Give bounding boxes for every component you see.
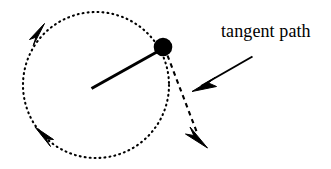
orbiting-ball — [154, 38, 173, 57]
figure-canvas: tangent path — [0, 0, 331, 169]
tangent-path-label: tangent path — [221, 21, 311, 41]
